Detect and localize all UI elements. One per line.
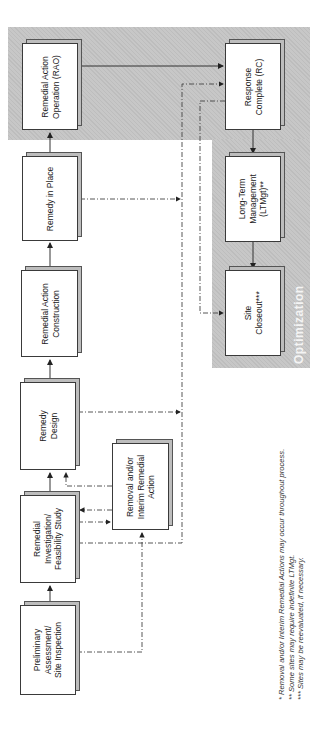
node-remedy-in-place: Remedy in Place: [22, 156, 78, 241]
node-remedy-design: Remedy Design: [20, 382, 76, 470]
footnotes: * Removal and/or Interim Remedial Action…: [277, 449, 306, 700]
node-site-closeout: Site Closeout***: [225, 270, 281, 356]
node-response-complete: Response Complete (RC): [225, 43, 281, 130]
node-remedial-investigation: Remedial Investigation/ Feasibility Stud…: [20, 495, 76, 583]
node-long-term-management: Long-Term Management (LTMgt)**: [225, 156, 281, 242]
node-preliminary-assessment: Preliminary Assessment/ Site Inspection: [20, 605, 76, 695]
footnote-2: ** Some sites may require indefinite LTM…: [287, 449, 297, 700]
node-removal-interim-action: Removal and/or Interim Remedial Action: [112, 443, 169, 530]
footnote-1: * Removal and/or Interim Remedial Action…: [277, 449, 287, 700]
node-remedial-action-operation: Remedial Action Operation (RAO): [22, 43, 78, 130]
footnote-3: *** Sites may be reevaluated, if necessa…: [296, 449, 306, 700]
node-remedial-action-construction: Remedial Action Construction: [21, 270, 78, 357]
